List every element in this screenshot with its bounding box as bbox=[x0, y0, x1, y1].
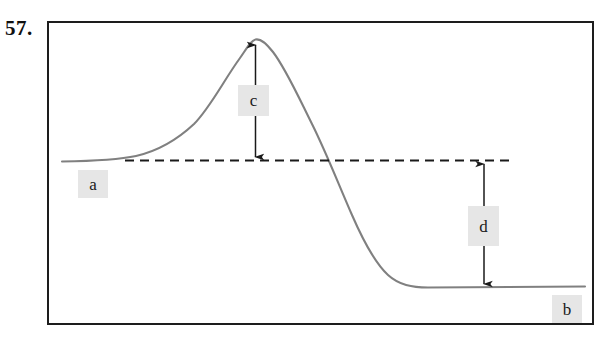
label-b: b bbox=[552, 295, 582, 323]
energy-profile-curve bbox=[62, 39, 585, 287]
label-c: c bbox=[238, 85, 269, 116]
label-a: a bbox=[78, 170, 108, 198]
figure-page: 57. a b c d bbox=[0, 0, 605, 349]
label-d: d bbox=[468, 206, 499, 246]
